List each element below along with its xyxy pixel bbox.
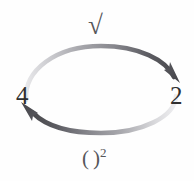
edge-label-squared: ()2: [82, 148, 107, 169]
diagram-canvas: 4 2 √ ()2: [0, 0, 194, 181]
node-label-right: 2: [170, 83, 183, 108]
paren-open: (: [82, 146, 89, 170]
edge-bottom-arrow: [21, 96, 176, 133]
paren-close: ): [93, 146, 100, 170]
edge-label-square-root: √: [88, 12, 103, 39]
edge-top-arrow: [26, 46, 180, 100]
exponent-two: 2: [100, 145, 107, 160]
node-label-left: 4: [16, 83, 29, 108]
